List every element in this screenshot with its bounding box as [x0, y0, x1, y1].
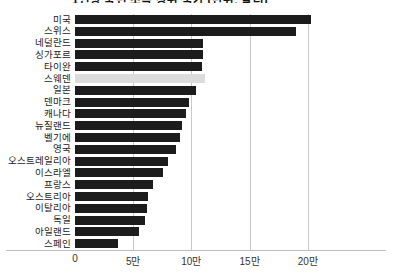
bar-캐나다: [75, 109, 186, 118]
category-label-일본: 일본: [53, 84, 71, 96]
bar-벨기에: [75, 133, 180, 142]
bar-rows: 미국스위스네덜란드싱가포르타이완스웨덴일본덴마크캐나다뉴질랜드벨기에영국오스트레…: [75, 14, 331, 250]
category-label-싱가포르: 싱가포르: [35, 49, 71, 61]
x-tick-5만: 5만: [126, 253, 141, 268]
category-label-뉴질랜드: 뉴질랜드: [35, 120, 71, 132]
category-label-이스라엘: 이스라엘: [35, 167, 71, 179]
bar-row: 벨기에: [75, 132, 331, 144]
category-label-영국: 영국: [53, 143, 71, 155]
bar-프랑스: [75, 180, 153, 189]
bar-row: 일본: [75, 85, 331, 97]
category-label-스웨덴: 스웨덴: [44, 73, 71, 85]
category-label-독일: 독일: [53, 214, 71, 226]
bar-아일랜드: [75, 227, 139, 236]
category-label-스위스: 스위스: [44, 25, 71, 37]
bar-row: 캐나다: [75, 108, 331, 120]
bar-chart: 1인당 국민 소득 상위 국가 (단위: 달러) 미국스위스네덜란드싱가포르타이…: [0, 0, 399, 277]
bar-독일: [75, 216, 145, 225]
x-axis-tick-labels: 05만10만15만20만: [0, 253, 399, 273]
bar-row: 스위스: [75, 26, 331, 38]
bar-뉴질랜드: [75, 121, 182, 130]
x-tick-0: 0: [72, 253, 78, 264]
plot-area: 미국스위스네덜란드싱가포르타이완스웨덴일본덴마크캐나다뉴질랜드벨기에영국오스트레…: [75, 14, 331, 250]
bar-row: 스페인: [75, 238, 331, 250]
category-label-프랑스: 프랑스: [44, 179, 71, 191]
bar-스웨덴: [75, 74, 205, 83]
category-label-캐나다: 캐나다: [44, 108, 71, 120]
bar-row: 오스트리아: [75, 191, 331, 203]
bar-이스라엘: [75, 168, 163, 177]
bar-타이완: [75, 62, 202, 71]
bar-row: 프랑스: [75, 179, 331, 191]
x-tick-20만: 20만: [298, 253, 318, 268]
bar-덴마크: [75, 98, 189, 107]
bar-row: 싱가포르: [75, 49, 331, 61]
x-tick-10만: 10만: [181, 253, 201, 268]
category-label-덴마크: 덴마크: [44, 96, 71, 108]
bar-싱가포르: [75, 50, 203, 59]
category-label-미국: 미국: [53, 14, 71, 26]
bar-일본: [75, 86, 196, 95]
category-label-타이완: 타이완: [44, 61, 71, 73]
bar-네덜란드: [75, 39, 203, 48]
bar-row: 영국: [75, 144, 331, 156]
bar-row: 오스트레일리아: [75, 156, 331, 168]
bar-row: 독일: [75, 215, 331, 227]
bar-스위스: [75, 27, 296, 36]
chart-title: 1인당 국민 소득 상위 국가 (단위: 달러): [72, 0, 372, 3]
bar-row: 덴마크: [75, 97, 331, 109]
x-axis-line: [6, 250, 386, 251]
bar-row: 뉴질랜드: [75, 120, 331, 132]
category-label-오스트레일리아: 오스트레일리아: [8, 155, 71, 167]
bar-row: 아일랜드: [75, 226, 331, 238]
bar-영국: [75, 145, 176, 154]
category-label-스페인: 스페인: [44, 238, 71, 250]
bar-이탈리아: [75, 204, 147, 213]
bar-row: 미국: [75, 14, 331, 26]
bar-row: 타이완: [75, 61, 331, 73]
category-label-벨기에: 벨기에: [44, 132, 71, 144]
bar-row: 이탈리아: [75, 203, 331, 215]
category-label-이탈리아: 이탈리아: [35, 202, 71, 214]
bar-오스트리아: [75, 192, 148, 201]
category-label-아일랜드: 아일랜드: [35, 226, 71, 238]
x-tick-15만: 15만: [239, 253, 259, 268]
bar-오스트레일리아: [75, 157, 168, 166]
category-label-오스트리아: 오스트리아: [26, 191, 71, 203]
bar-row: 이스라엘: [75, 167, 331, 179]
bar-row: 네덜란드: [75, 38, 331, 50]
category-label-네덜란드: 네덜란드: [35, 37, 71, 49]
bar-미국: [75, 15, 311, 24]
bar-스페인: [75, 239, 118, 248]
bar-row: 스웨덴: [75, 73, 331, 85]
